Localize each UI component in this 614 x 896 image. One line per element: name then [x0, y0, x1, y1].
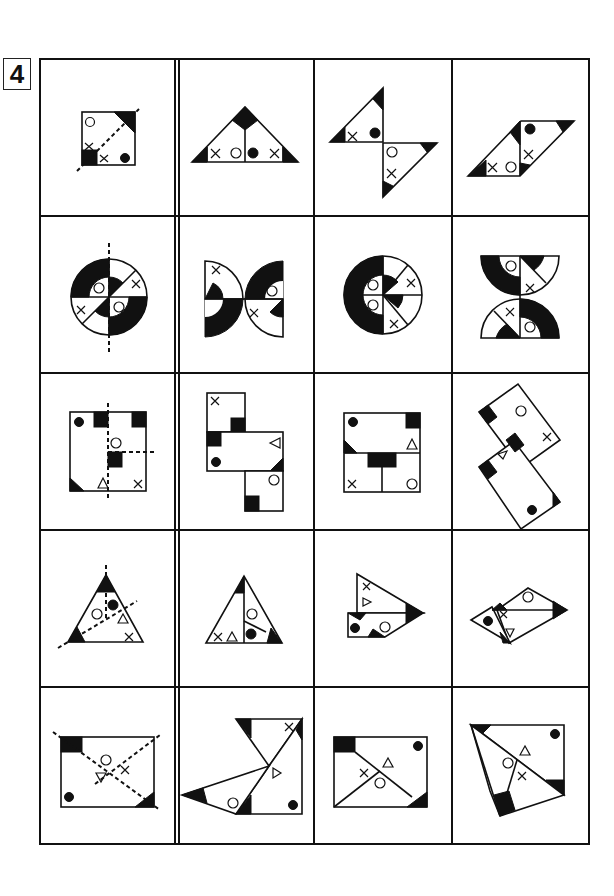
row5-question-rectangle-two-folds — [53, 732, 160, 810]
row4-option-a-triangle-divided[interactable] — [206, 576, 282, 643]
row3-option-c-rotated-rectangles[interactable] — [479, 384, 560, 529]
row4-option-c-rhombus-pieces[interactable] — [471, 588, 567, 643]
row4-question-triangle-two-folds — [58, 565, 143, 648]
row3-question-square-two-folds — [70, 403, 154, 500]
row1-option-c-parallelogram[interactable] — [468, 121, 574, 176]
row1-option-a-triangle[interactable] — [192, 107, 298, 162]
row3-option-a-stepped[interactable] — [207, 393, 283, 511]
puzzle-grid — [0, 0, 614, 896]
row1-question-square-fold — [77, 109, 139, 171]
row1-option-b-bowtie[interactable] — [330, 88, 437, 197]
row4-option-b-arrow-pieces[interactable] — [348, 574, 423, 637]
row3-option-b-square-divided[interactable] — [344, 413, 420, 492]
row5-option-b-rectangle-lines[interactable] — [334, 737, 427, 807]
row2-question-circle-fold — [71, 243, 147, 355]
row2-option-a-half-discs[interactable] — [205, 261, 283, 337]
row2-option-c-hourglass[interactable] — [481, 256, 559, 338]
row5-option-c-quadrilateral[interactable] — [471, 725, 564, 816]
row5-option-a-fan-pieces[interactable] — [182, 719, 302, 814]
row2-option-b-circle[interactable] — [344, 256, 422, 334]
